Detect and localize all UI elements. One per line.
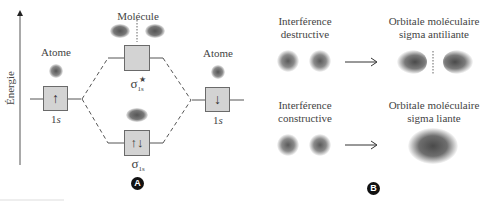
left-atom-1s-box: ↑ xyxy=(43,86,68,111)
right-atom-orbital-cloud xyxy=(211,65,225,79)
spin-pair-arrows-icon: ↑↓ xyxy=(131,135,144,151)
antibonding-lobe-left xyxy=(110,24,130,38)
antibonding-orbital-label: Orbitale moléculaire sigma antiliante xyxy=(384,15,484,41)
constructive-atom-cloud-left xyxy=(277,134,299,156)
bonding-orbital-label: Orbitale moléculaire sigma liante xyxy=(384,99,484,125)
bonding-orbital-cloud-b xyxy=(408,128,458,164)
bonding-orbital-cloud xyxy=(126,108,148,122)
destructive-atom-cloud-right xyxy=(309,50,331,72)
constructive-atom-cloud-right xyxy=(309,134,331,156)
antibonding-sigma-label: σ1s★ xyxy=(122,73,154,96)
panel-a-badge: A xyxy=(131,177,144,190)
destructive-atom-cloud-left xyxy=(277,50,299,72)
antibonding-sigma-box xyxy=(124,45,150,71)
antibonding-lobe-right xyxy=(145,24,165,38)
right-atom-orbital-label: 1s xyxy=(207,114,229,126)
molecule-title: Molécule xyxy=(112,10,164,22)
left-atom-title: Atome xyxy=(36,46,76,58)
energy-axis-label: Énergie xyxy=(4,64,16,112)
right-atom-title: Atome xyxy=(198,47,238,59)
spin-down-arrow-icon: ↓ xyxy=(214,92,221,108)
destructive-interference-label: Interférence destructive xyxy=(270,15,340,41)
antibonding-lobe-right-b xyxy=(443,50,473,74)
spin-up-arrow-icon: ↑ xyxy=(52,91,59,107)
bonding-sigma-box: ↑↓ xyxy=(124,130,150,156)
bonding-sigma-label: σ1s xyxy=(122,157,154,176)
left-atom-orbital-label: 1s xyxy=(45,113,67,125)
panel-b-badge: B xyxy=(367,182,380,195)
left-atom-orbital-cloud xyxy=(49,64,63,78)
antibonding-lobe-left-b xyxy=(397,50,427,74)
right-atom-1s-box: ↓ xyxy=(205,87,230,112)
constructive-interference-label: Interférence constructive xyxy=(270,99,340,125)
